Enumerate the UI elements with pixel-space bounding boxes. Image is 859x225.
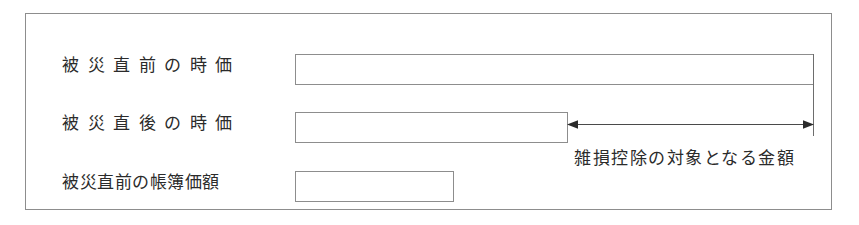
annotation-deduction-amount: 雑損控除の対象となる金額: [574, 150, 795, 167]
label-market-value-before-disaster: 被災直前の時価: [62, 57, 241, 74]
double-headed-arrow-icon: [567, 118, 814, 131]
bar-market-value-after-disaster: [295, 112, 568, 143]
bar-book-value-before-disaster: [295, 171, 454, 202]
label-book-value-before-disaster: 被災直前の帳簿価額: [62, 174, 220, 191]
label-market-value-after-disaster: 被災直後の時価: [62, 115, 241, 132]
diagram-canvas: 被災直前の時価 被災直後の時価 被災直前の帳簿価額 雑損控除の対象となる金額: [0, 0, 859, 225]
diagram-outer-frame: 被災直前の時価 被災直後の時価 被災直前の帳簿価額 雑損控除の対象となる金額: [25, 13, 832, 210]
bar-market-value-before-disaster: [295, 54, 814, 85]
